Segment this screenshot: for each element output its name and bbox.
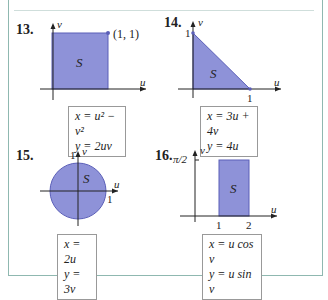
equation-y: y = u sin v	[209, 267, 255, 297]
equation-x: x = u cos v	[209, 237, 255, 267]
region-label: S	[230, 181, 237, 197]
tick-v-pi-over-2: π/2	[173, 153, 187, 165]
tick-u-1: 1	[216, 219, 222, 231]
problem-16-equations: x = u cos v y = u sin v	[202, 234, 262, 300]
axis-u-label: u	[271, 203, 277, 215]
tick-u-2: 2	[246, 219, 252, 231]
axis-v-label: v	[200, 144, 205, 156]
